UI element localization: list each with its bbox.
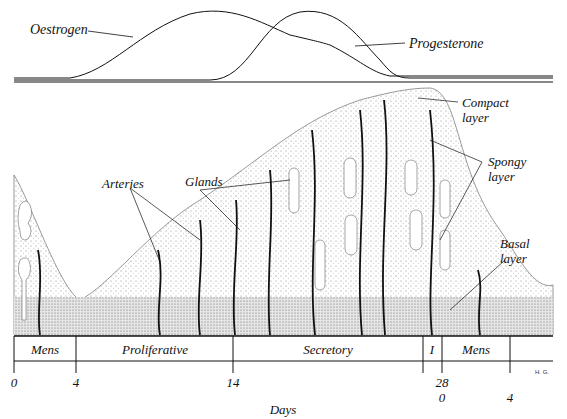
- artist-signature: H. G.: [535, 369, 549, 375]
- svg-text:layer: layer: [500, 251, 528, 266]
- tick-4-next: 4: [507, 390, 514, 405]
- progesterone-label: Progesterone: [408, 36, 483, 51]
- tick-14: 14: [227, 375, 241, 390]
- basal-layer-label: Basal: [500, 236, 530, 251]
- endometrium: [14, 88, 553, 335]
- tick-0-next: 0: [439, 390, 446, 405]
- compact-layer-label: Compact: [462, 95, 509, 110]
- phase-mens-next: Mens: [461, 342, 490, 357]
- days-axis: 0 4 14 28 0 4 Days: [11, 375, 514, 417]
- svg-text:layer: layer: [488, 169, 516, 184]
- phase-bar: Mens Proliferative Secretory I Mens H. G…: [14, 336, 553, 375]
- phase-proliferative: Proliferative: [121, 342, 188, 357]
- tick-4: 4: [73, 375, 80, 390]
- spongy-layer-label: Spongy: [488, 154, 527, 169]
- phase-mens: Mens: [30, 342, 59, 357]
- arteries-label: Arteries: [101, 176, 144, 191]
- tick-28: 28: [436, 375, 450, 390]
- oestrogen-label: Oestrogen: [30, 22, 88, 37]
- tick-0: 0: [11, 375, 18, 390]
- hormone-chart: Oestrogen Progesterone: [14, 11, 553, 82]
- basal-layer: [14, 297, 553, 335]
- menstrual-cycle-diagram: Oestrogen Progesterone: [0, 0, 567, 419]
- phase-secretory: Secretory: [303, 342, 353, 357]
- glands-label: Glands: [185, 174, 223, 189]
- svg-text:layer: layer: [462, 110, 490, 125]
- axis-title: Days: [269, 402, 297, 417]
- phase-ischaemic: I: [429, 342, 435, 357]
